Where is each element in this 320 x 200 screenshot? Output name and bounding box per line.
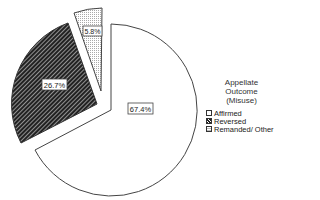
legend-title-line: (Misuse) (206, 96, 277, 105)
legend-item-remanded: Remanded/ Other (206, 125, 277, 133)
swatch-reversed (206, 118, 212, 124)
swatch-affirmed (206, 110, 212, 116)
legend-label: Remanded/ Other (214, 125, 274, 134)
label-affirmed: 67.4% (128, 103, 153, 114)
legend-title-line: Outcome (206, 87, 277, 96)
label-reversed: 26.7% (42, 79, 67, 90)
swatch-remanded (206, 126, 212, 132)
label-remanded: 5.8% (83, 26, 102, 36)
legend: Appellate Outcome (Misuse) Affirmed Reve… (206, 78, 277, 133)
svg-text:67.4%: 67.4% (130, 105, 152, 114)
legend-title: Appellate Outcome (Misuse) (206, 78, 277, 105)
svg-text:26.7%: 26.7% (44, 81, 66, 90)
legend-title-line: Appellate (206, 78, 277, 87)
svg-text:5.8%: 5.8% (85, 28, 101, 35)
